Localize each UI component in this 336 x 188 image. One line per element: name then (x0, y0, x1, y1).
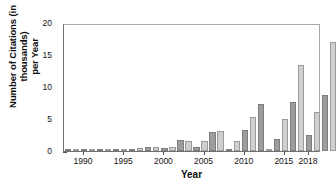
bar-1993 (105, 149, 111, 151)
bar-2010 (242, 130, 248, 151)
bar-1990 (81, 149, 87, 151)
x-tick-mark (244, 152, 245, 155)
x-tick-mark (284, 152, 285, 155)
plot-area (63, 24, 320, 152)
x-tick-mark (123, 152, 124, 155)
bar-2012 (258, 104, 264, 151)
bar-1998 (145, 147, 151, 151)
bar-1995 (121, 149, 127, 151)
x-tick-label: 2005 (184, 156, 224, 166)
bar-series (64, 25, 319, 151)
x-tick-label: 2010 (224, 156, 264, 166)
bar-2020 (322, 95, 328, 151)
bar-2017 (298, 65, 304, 151)
y-tick-label: 5 (12, 114, 52, 124)
bar-2005 (201, 141, 207, 151)
bar-2018 (306, 135, 312, 151)
bar-1988 (65, 149, 71, 151)
bar-2007 (217, 131, 223, 151)
y-tick-mark (63, 152, 67, 153)
y-tick-label: 20 (12, 18, 52, 28)
x-tick-label: 1995 (103, 156, 143, 166)
bar-1992 (97, 149, 103, 151)
x-tick-mark (163, 152, 164, 155)
bar-1994 (113, 149, 119, 151)
bar-2013 (266, 149, 272, 151)
bar-2016 (290, 102, 296, 151)
x-tick-mark (83, 152, 84, 155)
bar-2019 (314, 112, 320, 151)
y-tick-label: 10 (12, 82, 52, 92)
bar-2004 (193, 147, 199, 151)
bar-2003 (185, 141, 191, 151)
bar-2011 (250, 117, 256, 151)
bar-1989 (73, 149, 79, 151)
x-tick-mark (308, 152, 309, 155)
bar-2014 (274, 139, 280, 151)
x-tick-label: 2018 (288, 156, 328, 166)
bar-2000 (161, 148, 167, 151)
y-tick-label: 15 (12, 50, 52, 60)
bar-1991 (89, 149, 95, 151)
y-tick-label: 0 (12, 146, 52, 156)
bar-2008 (226, 149, 232, 151)
bar-2001 (169, 147, 175, 151)
bar-2021 (330, 42, 336, 151)
x-axis-title: Year (63, 169, 320, 180)
bar-1997 (137, 148, 143, 151)
x-tick-label: 1990 (63, 156, 103, 166)
bar-2006 (209, 132, 215, 151)
bar-2015 (282, 119, 288, 151)
bar-2002 (177, 140, 183, 151)
bar-1996 (129, 149, 135, 151)
bar-1999 (153, 147, 159, 151)
x-tick-label: 2000 (143, 156, 183, 166)
x-tick-mark (204, 152, 205, 155)
bar-2009 (234, 141, 240, 151)
